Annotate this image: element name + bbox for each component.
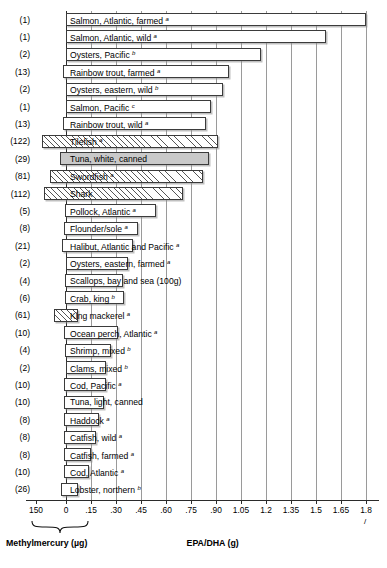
chart-row: (1)Salmon, Pacific c <box>0 98 387 115</box>
sample-count-label: (13) <box>0 67 30 77</box>
bar-label: Salmon, Atlantic, wild a <box>67 31 157 44</box>
bar-label: Catfish, wild a <box>67 431 122 444</box>
plot-area: (1)Salmon, Atlantic, farmed a(1)Salmon, … <box>0 0 387 500</box>
sample-count-label: (10) <box>0 467 30 477</box>
bar-label: Shark <box>67 189 92 199</box>
chart-row: (2)Oysters, eastern, wild b <box>0 81 387 98</box>
axis-tick <box>36 500 37 504</box>
bar-label: Cod, Pacific a <box>67 379 122 392</box>
chart-row: (10)Tuna, light, canned <box>0 394 387 411</box>
chart-row: (29)Tuna, white, canned <box>0 150 387 167</box>
sample-count-label: (29) <box>0 154 30 164</box>
axis-tick <box>291 500 292 504</box>
axis-tick <box>216 500 217 504</box>
bar-label: Oysters, Pacific b <box>67 48 135 61</box>
bar-label: Salmon, Pacific c <box>67 100 135 113</box>
sample-count-label: (8) <box>0 223 30 233</box>
sample-count-label: (2) <box>0 84 30 94</box>
bar-label: Scallops, bay and sea (100g) <box>67 276 181 286</box>
axis-title-epa-dha: EPA/DHA (g) <box>187 538 239 548</box>
axis-tick <box>91 500 92 504</box>
chart-row: (6)Crab, king b <box>0 289 387 306</box>
chart-row: (5)Pollock, Atlantic a <box>0 202 387 219</box>
axis-tick-label-right: .75 <box>185 505 197 515</box>
sample-count-label: (2) <box>0 258 30 268</box>
chart-row: (1)Salmon, Atlantic, wild a <box>0 28 387 45</box>
axis-title-methylmercury: Methylmercury (µg) <box>6 538 87 548</box>
bar-label: Rainbow trout, wild a <box>67 118 148 131</box>
sample-count-label: (2) <box>0 363 30 373</box>
sample-count-label: (1) <box>0 32 30 42</box>
axis-tick-label-right: 1.5 <box>310 505 322 515</box>
chart-row: (21)Halibut, Atlantic and Pacific a <box>0 237 387 254</box>
axis-tick <box>166 500 167 504</box>
sample-count-label: (8) <box>0 432 30 442</box>
sample-count-label: (61) <box>0 310 30 320</box>
chart-row: (81)Swordfish a <box>0 168 387 185</box>
axis-tick-label-right: .90 <box>210 505 222 515</box>
sample-count-label: (8) <box>0 415 30 425</box>
axis-tick <box>116 500 117 504</box>
chart-root: (1)Salmon, Atlantic, farmed a(1)Salmon, … <box>0 0 387 568</box>
sample-count-label: (8) <box>0 450 30 460</box>
sample-count-label: (1) <box>0 15 30 25</box>
sample-count-label: (26) <box>0 484 30 494</box>
axis-tick-label-right: 1.05 <box>233 505 249 515</box>
bar-label: Tuna, white, canned <box>67 154 147 164</box>
bar-label: Oysters, eastern, farmed a <box>67 257 170 270</box>
axis-tick-label-right: .60 <box>160 505 172 515</box>
chart-row: (10)Cod, Pacific a <box>0 376 387 393</box>
bar-label: Oysters, eastern, wild b <box>67 83 158 96</box>
axis-tick <box>241 500 242 504</box>
axis-break-marker: / <box>364 517 366 526</box>
bar-label: Crab, king b <box>67 292 115 305</box>
sample-count-label: (5) <box>0 206 30 216</box>
axis-tick <box>341 500 342 504</box>
chart-row: (10)Ocean perch, Atlantic a <box>0 324 387 341</box>
bar-label: Swordfish a <box>67 170 113 183</box>
chart-row: (10)Cod, Atlantic a <box>0 463 387 480</box>
bar-label: Ocean perch, Atlantic a <box>67 326 157 339</box>
sample-count-label: (10) <box>0 380 30 390</box>
bar-label: Halibut, Atlantic and Pacific a <box>67 239 179 252</box>
chart-row: (13)Rainbow trout, farmed a <box>0 63 387 80</box>
chart-row: (112)Shark <box>0 185 387 202</box>
bar-label: Rainbow trout, farmed a <box>67 65 160 78</box>
axis-baseline <box>26 500 379 501</box>
bar-label: Catfish, farmed a <box>67 448 134 461</box>
axis-tick-label-right: 1.8 <box>360 505 372 515</box>
chart-row: (8)Flounder/sole a <box>0 220 387 237</box>
chart-row: (122)Tilefish a <box>0 133 387 150</box>
chart-row: (4)Scallops, bay and sea (100g) <box>0 272 387 289</box>
bar-label: Flounder/sole a <box>67 222 128 235</box>
bar-label: Pollock, Atlantic a <box>67 205 136 218</box>
sample-count-label: (6) <box>0 293 30 303</box>
chart-row: (1)Salmon, Atlantic, farmed a <box>0 11 387 28</box>
chart-row: (13)Rainbow trout, wild a <box>0 115 387 132</box>
chart-row: (4)Shrimp, mixed b <box>0 342 387 359</box>
chart-row: (2)Clams, mixed b <box>0 359 387 376</box>
sample-count-label: (2) <box>0 49 30 59</box>
axis-tick-label-right: .45 <box>135 505 147 515</box>
axis-tick <box>266 500 267 504</box>
axis-tick-label-right: 0 <box>64 505 69 515</box>
sample-count-label: (13) <box>0 119 30 129</box>
chart-row: (8)Catfish, farmed a <box>0 446 387 463</box>
sample-count-label: (122) <box>0 136 30 146</box>
bar <box>44 187 183 200</box>
chart-row: (61)King mackerel a <box>0 307 387 324</box>
chart-row: (2)Oysters, Pacific b <box>0 46 387 63</box>
bar-label: Shrimp, mixed b <box>67 344 131 357</box>
chart-row: (2)Oysters, eastern, farmed a <box>0 255 387 272</box>
axis-tick <box>366 500 367 504</box>
axis-tick <box>316 500 317 504</box>
sample-count-label: (1) <box>0 102 30 112</box>
x-axis: Methylmercury (µg) EPA/DHA (g) / 1500.15… <box>0 500 387 568</box>
axis-tick <box>191 500 192 504</box>
bar-label: King mackerel a <box>67 309 130 322</box>
axis-tick-label-right: .15 <box>85 505 97 515</box>
bar-label: Tilefish a <box>67 135 103 148</box>
axis-tick-label-right: .30 <box>110 505 122 515</box>
axis-tick-label-right: 1.2 <box>260 505 272 515</box>
sample-count-label: (10) <box>0 328 30 338</box>
